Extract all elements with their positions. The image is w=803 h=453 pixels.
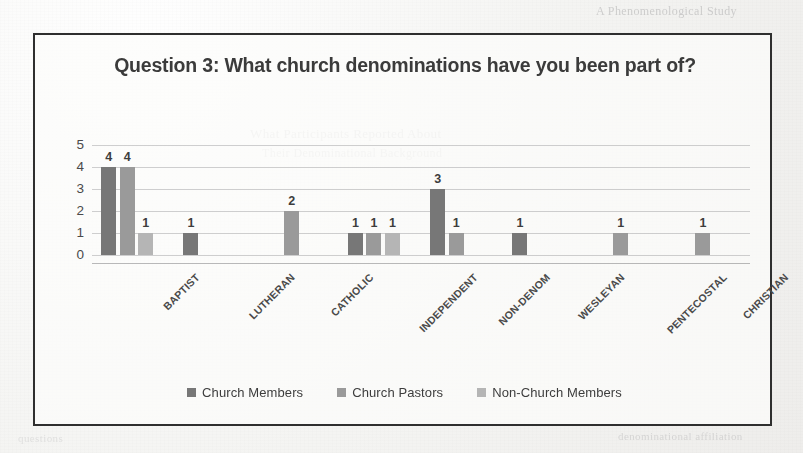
data-label-baptist-2: 1 [133, 216, 159, 230]
data-label-non-denom-0: 3 [425, 172, 451, 186]
y-axis-tick-1: 1 [64, 228, 84, 238]
legend-item-non-church-members[interactable]: Non-Church Members [477, 385, 622, 400]
x-label-pentecostal: PENTECOSTAL [664, 271, 729, 336]
bleed-through-text-bottom-right: denominational affiliation [618, 430, 743, 442]
chart-title: Question 3: What church denominations ha… [95, 53, 715, 78]
data-label-christian-1: 1 [690, 216, 716, 230]
x-label-lutheran: LUTHERAN [247, 271, 297, 321]
plot-region: 012345 4411211131111 [64, 145, 750, 263]
data-label-independent-2: 1 [379, 216, 405, 230]
legend-swatch-icon-1 [337, 388, 346, 397]
gridline-0 [92, 255, 750, 256]
bar-christian-church-pastors [695, 233, 710, 255]
bleed-through-text-bottom-left: questions [18, 432, 63, 444]
x-label-baptist: BAPTIST [161, 271, 202, 312]
y-axis-tick-3: 3 [64, 184, 84, 194]
bar-pentecostal-church-pastors [613, 233, 628, 255]
legend-item-church-pastors[interactable]: Church Pastors [337, 385, 443, 400]
chart-legend: Church MembersChurch PastorsNon-Church M… [35, 385, 774, 400]
bar-lutheran-church-members [183, 233, 198, 255]
x-label-non-denom: NON-DENOM [496, 271, 552, 327]
legend-swatch-icon-0 [187, 388, 196, 397]
gridline-4 [92, 167, 750, 168]
legend-label-1: Church Pastors [352, 385, 443, 400]
bar-baptist-church-members [101, 167, 116, 255]
bar-non-denom-church-pastors [449, 233, 464, 255]
data-label-catholic-1: 2 [279, 194, 305, 208]
data-label-lutheran-0: 1 [178, 216, 204, 230]
gridline-2 [92, 211, 750, 212]
bar-catholic-church-pastors [284, 211, 299, 255]
bar-baptist-church-pastors [120, 167, 135, 255]
bar-baptist-non-church-members [138, 233, 153, 255]
x-label-wesleyan: WESLEYAN [576, 271, 627, 322]
data-label-pentecostal-1: 1 [608, 216, 634, 230]
y-axis-tick-2: 2 [64, 206, 84, 216]
bleed-through-text-top-right: A Phenomenological Study [596, 4, 737, 19]
data-label-non-denom-1: 1 [443, 216, 469, 230]
x-label-catholic: CATHOLIC [328, 271, 375, 318]
bar-independent-church-pastors [366, 233, 381, 255]
x-axis-line [92, 263, 750, 264]
x-label-independent: INDEPENDENT [417, 271, 480, 334]
plot-area: 4411211131111 [92, 145, 750, 255]
legend-item-church-members[interactable]: Church Members [187, 385, 303, 400]
legend-swatch-icon-2 [477, 388, 486, 397]
y-axis-tick-0: 0 [64, 250, 84, 260]
data-label-wesleyan-0: 1 [507, 216, 533, 230]
bar-independent-church-members [348, 233, 363, 255]
gridline-3 [92, 189, 750, 190]
legend-label-2: Non-Church Members [492, 385, 622, 400]
bar-independent-non-church-members [385, 233, 400, 255]
y-axis-tick-4: 4 [64, 162, 84, 172]
bar-wesleyan-church-members [512, 233, 527, 255]
legend-label-0: Church Members [202, 385, 303, 400]
y-axis-tick-5: 5 [64, 140, 84, 150]
chart-frame: Question 3: What church denominations ha… [33, 33, 772, 426]
gridline-5 [92, 145, 750, 146]
data-label-baptist-1: 4 [114, 150, 140, 164]
